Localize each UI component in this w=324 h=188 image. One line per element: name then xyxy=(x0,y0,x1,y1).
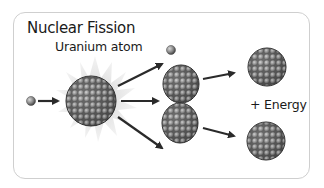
splitting-nucleus-icon xyxy=(162,65,199,143)
uranium-nucleus-icon xyxy=(66,76,116,126)
arrow-icon xyxy=(203,73,234,79)
arrow-icon xyxy=(118,117,162,148)
fission-product-bottom-icon xyxy=(247,122,285,160)
released-neutron-icon xyxy=(167,46,176,55)
arrow-icon xyxy=(118,64,162,86)
fission-diagram xyxy=(0,0,324,188)
incoming-neutron-icon xyxy=(27,97,36,106)
arrow-icon xyxy=(203,128,234,136)
fission-product-top-icon xyxy=(248,48,286,86)
